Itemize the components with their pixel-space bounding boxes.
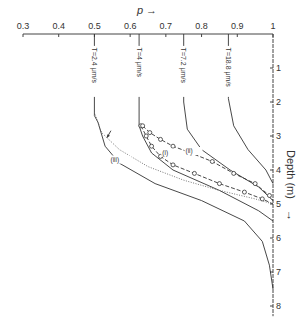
series-label: T=7.2 μm/s xyxy=(179,48,187,84)
data-marker xyxy=(171,163,175,167)
data-marker xyxy=(242,190,246,194)
x-tick-label: 0.4 xyxy=(52,21,65,31)
y-tick-label: 8 xyxy=(276,301,281,311)
x-axis-label: p xyxy=(136,4,143,16)
series-label: T=2.4 μm/s xyxy=(90,48,98,84)
series-line xyxy=(139,34,273,221)
data-marker xyxy=(148,131,152,135)
x-tick-label: 1 xyxy=(270,21,275,31)
y-tick-label: 5 xyxy=(276,199,281,209)
data-marker xyxy=(217,182,221,186)
x-axis: 0.30.40.50.60.70.80.91 xyxy=(17,21,276,37)
x-tick-label: 0.3 xyxy=(17,21,30,31)
data-marker xyxy=(171,144,175,148)
y-axis-label: Depth (m) xyxy=(285,150,297,199)
y-tick-label: 2 xyxy=(276,97,281,107)
x-tick-label: 0.6 xyxy=(124,21,137,31)
data-marker xyxy=(144,134,148,138)
depth-profile-chart: 0.30.40.50.60.70.80.91 12345678→ T=2.4 μ… xyxy=(0,0,304,331)
data-marker xyxy=(260,197,264,201)
y-tick-label: 6 xyxy=(276,233,281,243)
x-tick-label: 0.8 xyxy=(195,21,208,31)
y-axis-arrow: → xyxy=(285,210,297,221)
data-marker xyxy=(210,160,214,164)
y-tick-label: 3 xyxy=(276,131,281,141)
series-line xyxy=(228,34,273,184)
series-label: T=4 μm/s xyxy=(135,48,143,78)
x-tick-label: 0.9 xyxy=(231,21,244,31)
data-marker xyxy=(150,144,154,148)
data-marker xyxy=(159,137,163,141)
data-marker xyxy=(232,171,236,175)
annotations: T=2.4 μm/sT=4 μm/sT=7.2 μm/sT=18.8 μm/s(… xyxy=(90,46,232,164)
x-tick-label: 0.5 xyxy=(88,21,101,31)
series-annotation: (ii) xyxy=(186,147,193,155)
series-annotation: (i) xyxy=(162,149,168,157)
data-marker xyxy=(253,182,257,186)
data-marker xyxy=(141,124,145,128)
x-tick-label: 0.7 xyxy=(160,21,173,31)
y-tick-label: 4 xyxy=(276,165,281,175)
data-marker xyxy=(267,194,271,198)
series-annotation: (iii) xyxy=(111,156,120,164)
y-tick-label: 7 xyxy=(276,267,281,277)
y-tick-label: 1 xyxy=(276,63,281,73)
x-axis-arrow: → xyxy=(146,4,157,16)
data-marker xyxy=(192,171,196,175)
series-line xyxy=(143,126,273,201)
series-label: T=18.8 μm/s xyxy=(224,48,232,88)
